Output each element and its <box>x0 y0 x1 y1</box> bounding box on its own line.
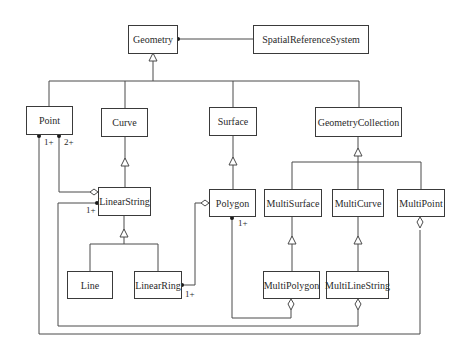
class-multi-polygon: MultiPolygon <box>263 271 320 299</box>
class-multi-point: MultiPoint <box>397 189 445 217</box>
class-spatial-reference-system: SpatialReferenceSystem <box>253 25 369 54</box>
class-multi-surface: MultiSurface <box>264 189 322 217</box>
class-multi-curve: MultiCurve <box>332 189 384 217</box>
generalization-arrow-surface <box>229 157 237 165</box>
generalization-arrow-curve <box>121 158 129 166</box>
aggregation-diamond-multipoint <box>417 217 423 228</box>
class-point: Point <box>26 106 73 135</box>
connector-layer <box>0 0 470 352</box>
class-geometry: Geometry <box>128 25 178 54</box>
class-curve: Curve <box>101 108 148 137</box>
aggregation-linearring-polygon <box>182 203 201 285</box>
class-geometry-collection: GeometryCollection <box>315 107 402 137</box>
class-linear-string: LinearString <box>98 187 151 216</box>
class-linear-ring: LinearRing <box>134 271 182 299</box>
multiplicity-label: 1+ <box>238 218 248 228</box>
aggregation-diamond-linearstring <box>90 189 98 195</box>
generalization-arrow-geometrycollection <box>354 148 362 156</box>
multiplicity-label: 1+ <box>185 289 195 299</box>
aggregation-diamond-multipolygon <box>288 299 294 310</box>
class-surface: Surface <box>209 107 257 136</box>
multiplicity-label: 1+ <box>86 205 96 215</box>
generalization-arrow-multicurve <box>354 236 362 244</box>
aggregation-polygon-multipolygon <box>232 217 291 318</box>
class-line: Line <box>67 271 113 299</box>
aggregation-diamond-polygon <box>201 200 209 206</box>
multiplicity-label: 1+ <box>44 137 54 147</box>
generalization-arrow-geometry <box>149 53 157 61</box>
aggregation-linearstring-multilinestring <box>58 203 358 326</box>
generalization-arrow-multisurface <box>288 236 296 244</box>
multiplicity-label: 2+ <box>64 137 74 147</box>
class-polygon: Polygon <box>209 189 256 217</box>
class-multi-line-string: MultiLineString <box>326 271 389 299</box>
aggregation-diamond-multilinestring <box>355 299 361 310</box>
generalization-arrow-linearstring <box>120 229 128 237</box>
uml-diagram: Geometry SpatialReferenceSystem Point Cu… <box>0 0 470 352</box>
